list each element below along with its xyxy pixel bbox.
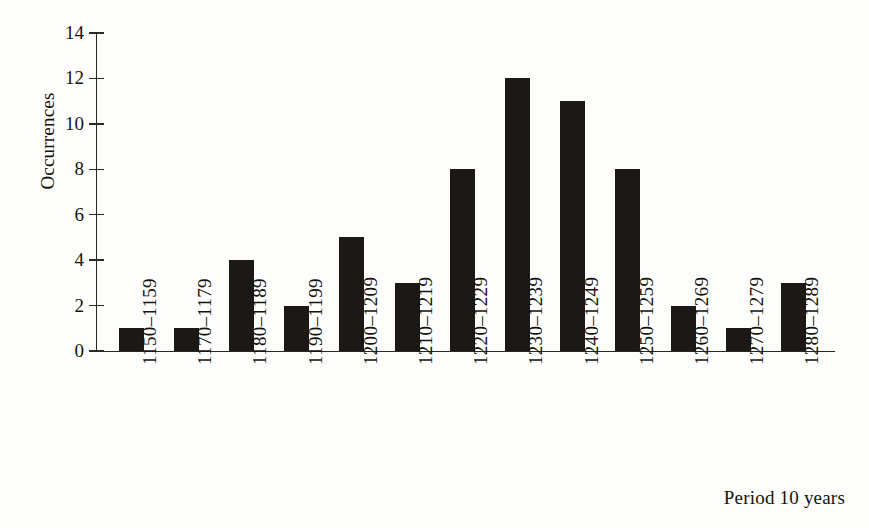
x-axis-tick-label: 1250–1259 <box>636 245 658 365</box>
x-axis-tick-label: 1210–1219 <box>415 245 437 365</box>
x-axis-tick-label: 1230–1239 <box>525 245 547 365</box>
x-axis-tick-label: 1170–1179 <box>194 245 216 365</box>
x-axis-tick-label: 1280–1289 <box>801 245 823 365</box>
x-axis-tick-label: 1270–1279 <box>746 245 768 365</box>
x-axis-tick-labels: 1150–11591170–11791180–11891190–11991200… <box>0 351 869 481</box>
x-axis-title: Period 10 years <box>724 487 845 509</box>
bar-chart: Occurrences 02468101214 1150–11591170–11… <box>0 0 869 528</box>
x-axis-tick-label: 1200–1209 <box>360 245 382 365</box>
x-axis-tick-label: 1220–1229 <box>470 245 492 365</box>
x-axis-tick-label: 1190–1199 <box>305 245 327 365</box>
x-axis-tick-label: 1240–1249 <box>581 245 603 365</box>
x-axis-tick-label: 1150–1159 <box>139 245 161 365</box>
x-axis-tick-label: 1260–1269 <box>691 245 713 365</box>
x-axis-tick-label: 1180–1189 <box>249 245 271 365</box>
